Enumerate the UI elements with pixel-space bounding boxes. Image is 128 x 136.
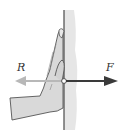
force-f-label: F (106, 62, 114, 73)
force-r-arrowhead (15, 76, 26, 86)
force-f-arrowhead (104, 76, 118, 86)
force-r-label: R (17, 62, 25, 73)
contact-point (62, 79, 67, 84)
wall-surface (64, 10, 77, 130)
